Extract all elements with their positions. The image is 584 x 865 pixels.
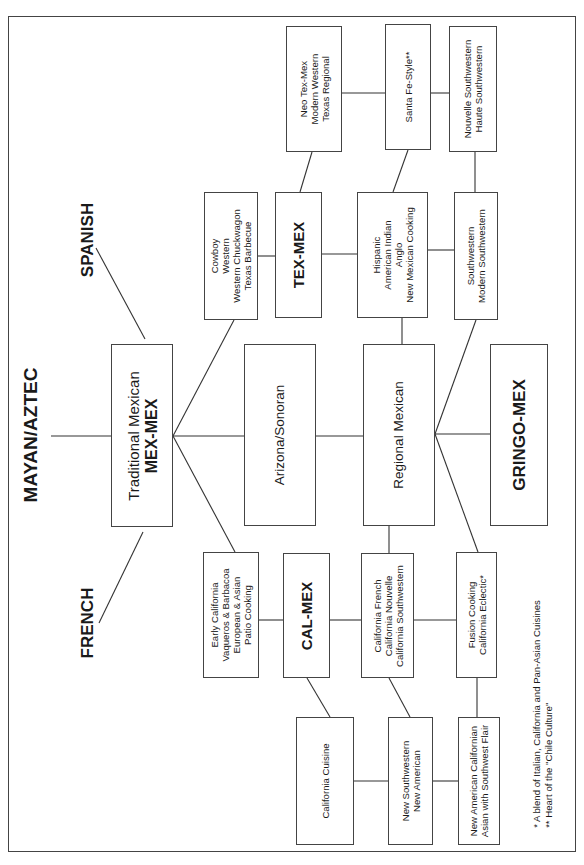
node-hispanic-new-mexican: Hispanic American Indian Anglo New Mexic… [357, 192, 428, 318]
french-heading: FRENCH [76, 583, 100, 663]
node-line: European & Asian [231, 568, 242, 661]
node-line: Santa Fe-Style** [403, 52, 414, 123]
node-line: Haute Southwestern [473, 40, 484, 139]
node-line: Modern Southwestern [476, 209, 487, 303]
node-line: Nouvelle Southwestern [462, 40, 473, 139]
node-traditional-mexican: Traditional Mexican MEX-MEX [111, 344, 173, 527]
node-arizona-sonoran: Arizona/Sonoran [244, 344, 316, 526]
spanish-label: SPANISH [78, 203, 98, 277]
node-regional-mexican: Regional Mexican [363, 344, 435, 526]
node-santa-fe-style: Santa Fe-Style** [385, 24, 431, 150]
node-cal-mex: CAL-MEX [283, 553, 330, 678]
root-heading: MAYAN/AZTEC [18, 345, 44, 525]
node-gringo-mex: GRINGO-MEX [490, 344, 548, 526]
node-line: Fusion Cooking [466, 575, 477, 655]
node-line: Western Chuckwagon [231, 209, 242, 303]
node-line: Asian with Southwest Flair [479, 725, 490, 838]
node-line: Vaqueros & Barbacoa [220, 568, 231, 661]
node-line: New Southwestern [400, 741, 411, 822]
node-line: California Southwestern [393, 565, 404, 667]
spanish-heading: SPANISH [76, 195, 100, 285]
node-new-southwestern: New Southwestern New American [388, 717, 433, 845]
node-cowboy-western: Cowboy Western Western Chuckwagon Texas … [204, 192, 258, 320]
node-nouvelle-southwestern: Nouvelle Southwestern Haute Southwestern [449, 26, 497, 152]
node-line: GRINGO-MEX [510, 379, 529, 490]
node-early-california: Early California Vaqueros & Barbacoa Eur… [203, 552, 259, 678]
node-line: California French [371, 565, 382, 667]
node-line: MEX-MEX [143, 371, 161, 501]
node-line: American Indian [382, 207, 393, 302]
node-line: CAL-MEX [298, 581, 316, 649]
node-line: TEX-MEX [290, 222, 308, 289]
node-line: California Cuisine [320, 743, 331, 818]
node-line: Cowboy [209, 209, 220, 303]
node-line: California Eclectic* [477, 575, 488, 655]
footnotes: * A blend of Italian, California and Pan… [532, 590, 554, 838]
node-southwestern: Southwestern Modern Southwestern [454, 192, 498, 320]
node-line: New Mexican Cooking [404, 207, 415, 302]
root-label: MAYAN/AZTEC [20, 368, 42, 503]
node-line: Texas Barbecue [242, 209, 253, 303]
node-california-cuisine: California Cuisine [296, 717, 354, 845]
node-line: Anglo [393, 207, 404, 302]
node-line: Hispanic [371, 207, 382, 302]
node-line: Southwestern [465, 209, 476, 303]
cuisine-family-tree-diagram: MAYAN/AZTEC SPANISH FRENCH Traditional M… [0, 0, 584, 865]
node-line: Early California [209, 568, 220, 661]
footnote-1: * A blend of Italian, California and Pan… [531, 600, 543, 828]
node-line: Regional Mexican [391, 381, 407, 488]
node-california-french: California French California Nouvelle Ca… [361, 553, 414, 678]
french-label: FRENCH [78, 588, 98, 659]
footnote-2: ** Heart of the "Chile Culture" [543, 600, 555, 828]
node-new-american-californian: New American Californian Asian with Sout… [458, 717, 500, 845]
node-line: New American Californian [468, 725, 479, 838]
node-line: California Nouvelle [382, 565, 393, 667]
node-line: Traditional Mexican [124, 371, 143, 501]
node-line: Modern Western [309, 54, 320, 125]
node-neo-tex-mex: Neo Tex-Mex Modern Western Texas Regiona… [286, 26, 342, 152]
node-tex-mex: TEX-MEX [275, 192, 322, 318]
node-fusion-cooking: Fusion Cooking California Eclectic* [456, 552, 497, 678]
node-line: Arizona/Sonoran [272, 385, 288, 486]
node-line: Neo Tex-Mex [298, 54, 309, 125]
node-line: New American [411, 741, 422, 822]
node-line: Western [220, 209, 231, 303]
node-line: Patio Cooking [242, 568, 253, 661]
node-line: Texas Regional [320, 54, 331, 125]
